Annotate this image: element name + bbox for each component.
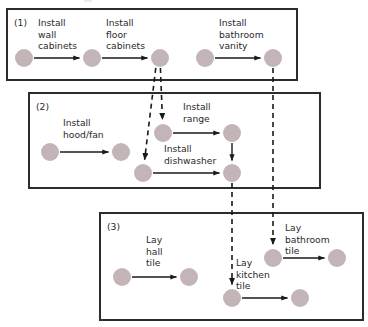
event-node xyxy=(291,289,309,307)
event-node xyxy=(154,124,172,142)
event-node xyxy=(223,289,241,307)
group-number-group-1: (1) xyxy=(14,17,27,28)
event-node xyxy=(223,124,241,142)
task-label-install-floor-cabinets: Installfloorcabinets xyxy=(106,17,145,51)
event-node xyxy=(41,143,59,161)
task-nodes-layer xyxy=(15,49,346,307)
event-node xyxy=(264,249,282,267)
event-node xyxy=(180,268,198,286)
task-label-lay-kitchen-tile: Laykitchentile xyxy=(236,257,270,291)
task-label-install-dishwasher: Installdishwasher xyxy=(164,143,216,166)
task-label-lay-bathroom-tile: Laybathroomtile xyxy=(285,222,330,256)
task-label-install-wall-cabinets: Installwallcabinets xyxy=(38,17,77,51)
task-label-install-hood-fan: Installhood/fan xyxy=(63,117,104,140)
event-node xyxy=(134,164,152,182)
event-node xyxy=(112,143,130,161)
group-number-group-2: (2) xyxy=(36,101,49,112)
event-node xyxy=(83,49,101,67)
group-number-group-3: (3) xyxy=(107,221,120,232)
event-node xyxy=(328,249,346,267)
task-label-install-bathroom-vanity: Installbathroomvanity xyxy=(219,17,264,51)
event-node xyxy=(151,49,169,67)
event-node xyxy=(264,49,282,67)
precedence-network-diagram: (1)InstallwallcabinetsInstallfloorcabine… xyxy=(0,0,368,327)
dependency-link-floor-cabinets-to-dishwasher xyxy=(145,68,156,160)
event-node xyxy=(15,49,33,67)
event-node xyxy=(196,49,214,67)
group-box-group-2 xyxy=(29,93,320,188)
event-node xyxy=(113,268,131,286)
event-node xyxy=(223,164,241,182)
task-label-lay-hall-tile: Layhalltile xyxy=(146,234,163,268)
diagram-page: (1)InstallwallcabinetsInstallfloorcabine… xyxy=(0,0,368,327)
task-label-install-range: Installrange xyxy=(183,101,211,124)
